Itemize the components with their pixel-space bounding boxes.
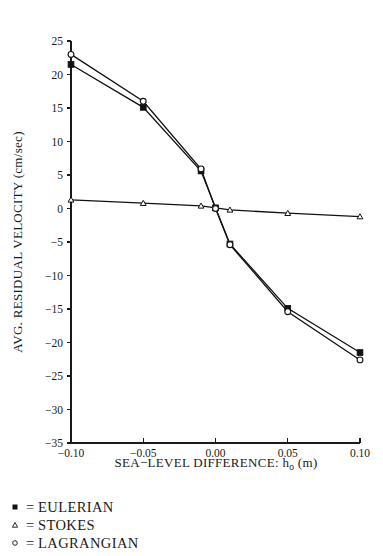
x-tick-group: [71, 438, 360, 443]
data-point-square: [140, 104, 146, 110]
legend-label-stokes: STOKES: [38, 517, 95, 534]
y-tick-label: 20: [52, 69, 64, 81]
data-point-circle: [213, 206, 219, 212]
open-triangle-icon: [8, 520, 22, 530]
legend-label-lagrangian: LAGRANGIAN: [38, 535, 139, 552]
y-tick-label: 25: [52, 35, 64, 47]
data-point-square: [68, 62, 74, 68]
y-tick-label: −5: [51, 236, 63, 248]
data-point-circle: [198, 166, 204, 172]
data-point-circle: [227, 242, 233, 248]
data-point-circle: [68, 52, 74, 58]
legend-equals-1: =: [22, 517, 38, 534]
y-tick-label-group: 2520151050−5−10−15−20−25−30−35: [45, 35, 63, 449]
y-axis: 2520151050−5−10−15−20−25−30−35: [45, 35, 71, 449]
chart-plot-area: 2520151050−5−10−15−20−25−30−35 −0.10−0.0…: [0, 0, 383, 556]
legend-item-lagrangian: = LAGRANGIAN: [8, 534, 308, 552]
open-circle-icon: [8, 538, 22, 548]
y-axis-title: AVG. RESIDUAL VELOCITY (cm/sec): [10, 131, 25, 353]
legend-item-eulerian: = EULERIAN: [8, 498, 308, 516]
y-tick-label: 15: [52, 102, 64, 114]
filled-square-icon: [8, 502, 22, 512]
legend-label-eulerian: EULERIAN: [38, 499, 114, 516]
legend-equals-2: =: [22, 535, 38, 552]
data-point-circle: [140, 98, 146, 104]
y-tick-label: −20: [45, 337, 63, 349]
y-tick-label: −25: [45, 370, 63, 382]
x-axis-title: SEA−LEVEL DIFFERENCE: ho (m): [114, 455, 317, 472]
x-tick-label: 0.10: [350, 447, 370, 459]
y-tick-label: −30: [45, 404, 63, 416]
chart-legend: = EULERIAN = STOKES = LAGRANGIAN: [8, 498, 308, 552]
figure-container: 2520151050−5−10−15−20−25−30−35 −0.10−0.0…: [0, 0, 383, 556]
legend-item-stokes: = STOKES: [8, 516, 308, 534]
y-tick-group: [67, 41, 71, 443]
data-point-circle: [285, 309, 291, 315]
x-tick-label: −0.10: [58, 447, 85, 459]
y-tick-label: 5: [57, 169, 63, 181]
legend-equals-0: =: [22, 499, 38, 516]
y-tick-label: 0: [57, 203, 63, 215]
series-markers-group: [68, 52, 363, 363]
y-tick-label: −15: [45, 303, 63, 315]
data-point-circle: [357, 357, 363, 363]
data-point-square: [357, 350, 363, 356]
y-tick-label: 10: [52, 136, 64, 148]
y-tick-label: −10: [45, 270, 63, 282]
